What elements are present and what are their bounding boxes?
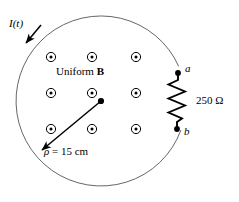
- field-dot-icon: [131, 124, 140, 133]
- terminal-b-label: b: [184, 126, 190, 137]
- field-dot-icon: [131, 88, 140, 97]
- uniform-field-prefix: Uniform: [56, 65, 97, 77]
- resistor-symbol: [169, 70, 186, 132]
- terminal-b-dot: [174, 126, 180, 132]
- terminal-a-label: a: [185, 63, 191, 74]
- field-dot-icon: [46, 52, 55, 61]
- field-dot-icon: [46, 124, 55, 133]
- radius-value: = 15 cm: [49, 145, 88, 157]
- field-dot-icon: [87, 88, 96, 97]
- field-dot-icon: [87, 52, 96, 61]
- magnetic-field-symbol: B: [97, 65, 104, 77]
- uniform-field-label: Uniform B: [56, 66, 104, 77]
- field-dot-icon: [46, 88, 55, 97]
- current-direction-arrow: [26, 25, 41, 43]
- current-label: I(t): [9, 18, 23, 29]
- radius-label: ρ = 15 cm: [44, 146, 88, 157]
- resistance-label: 250 Ω: [196, 95, 223, 106]
- field-dot-icon: [87, 124, 96, 133]
- terminal-a-dot: [175, 70, 181, 76]
- physics-figure-circular-loop: I(t) Uniform B ρ = 15 cm 250 Ω a b: [0, 0, 239, 202]
- field-dot-icon: [131, 52, 140, 61]
